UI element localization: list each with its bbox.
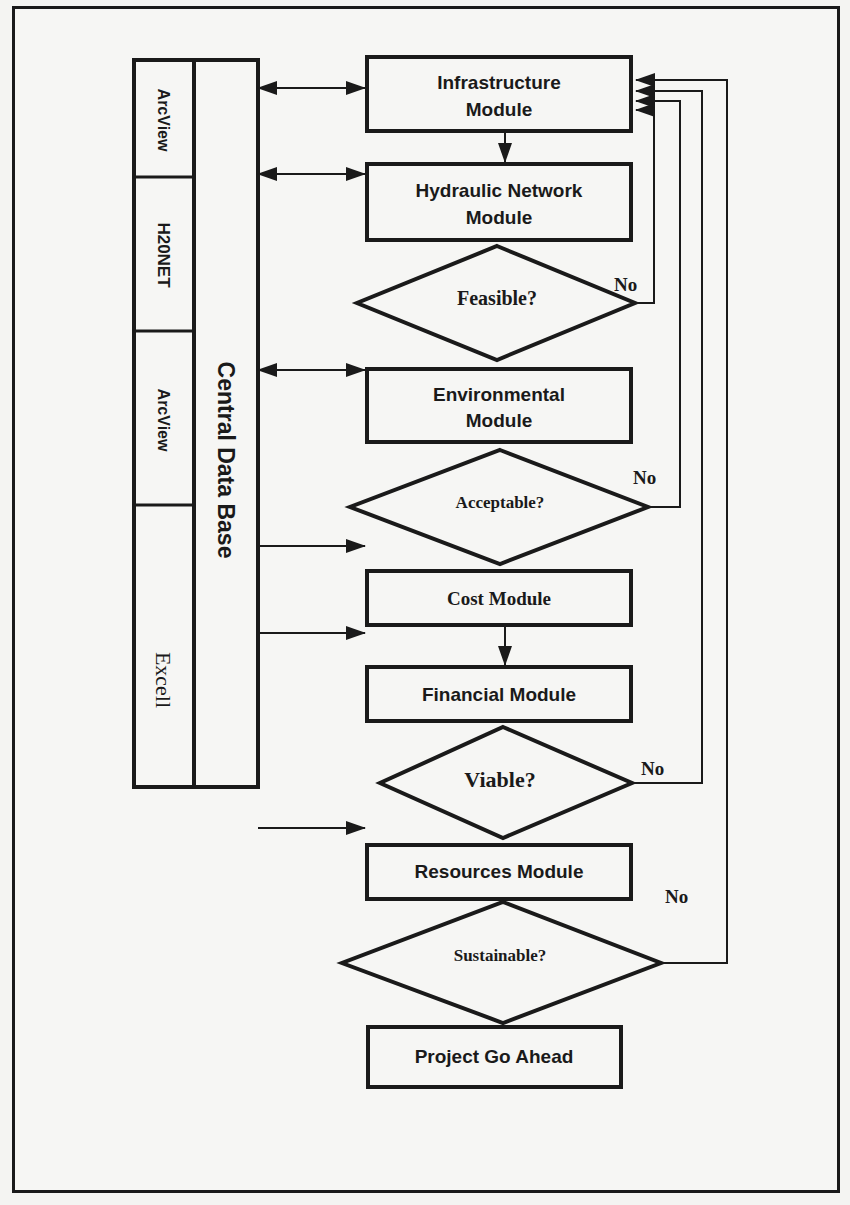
- database-column: ArcView H20NET ArcView Excell Central Da…: [134, 60, 258, 787]
- hydraulic-line2: Module: [466, 207, 533, 228]
- feedback-loops: [632, 80, 727, 963]
- sustainable-label: Sustainable?: [454, 946, 547, 965]
- acceptable-label: Acceptable?: [456, 493, 545, 512]
- tool-h20net: H20NET: [154, 222, 173, 288]
- db-connectors: [258, 88, 365, 828]
- viable-label: Viable?: [464, 767, 535, 792]
- tool-excell: Excell: [151, 652, 176, 708]
- flowchart: ArcView H20NET ArcView Excell Central Da…: [0, 0, 850, 1205]
- sustainable-no-label: No: [665, 886, 688, 907]
- hydraulic-network-module: [367, 164, 631, 240]
- acceptable-no-label: No: [633, 467, 656, 488]
- feasible-no-label: No: [614, 274, 637, 295]
- tool-arcview-2: ArcView: [155, 389, 172, 452]
- feasible-label: Feasible?: [457, 287, 537, 309]
- financial-module-label: Financial Module: [422, 684, 576, 705]
- go-ahead-label: Project Go Ahead: [415, 1046, 574, 1067]
- environmental-module: [367, 369, 631, 442]
- viable-no-label: No: [641, 758, 664, 779]
- infrastructure-line1: Infrastructure: [437, 72, 561, 93]
- environmental-line1: Environmental: [433, 384, 565, 405]
- infrastructure-line2: Module: [466, 99, 533, 120]
- central-database-label: Central Data Base: [213, 362, 239, 559]
- hydraulic-line1: Hydraulic Network: [416, 180, 583, 201]
- environmental-line2: Module: [466, 410, 533, 431]
- resources-module-label: Resources Module: [415, 861, 584, 882]
- tool-arcview-1: ArcView: [155, 89, 172, 152]
- cost-module-label: Cost Module: [447, 588, 551, 609]
